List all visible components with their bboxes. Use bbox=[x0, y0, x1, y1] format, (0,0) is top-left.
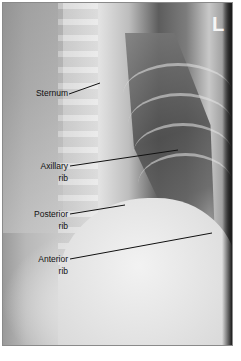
label-axillary-rib: Axillary rib bbox=[22, 160, 68, 184]
label-line1: Anterior bbox=[22, 253, 68, 265]
label-line1: Posterior bbox=[18, 208, 68, 220]
label-line1: Axillary bbox=[22, 160, 68, 172]
label-line2: rib bbox=[22, 265, 68, 277]
axillary-rib-leader-line bbox=[70, 150, 178, 166]
label-line2: rib bbox=[22, 172, 68, 184]
posterior-rib-leader-line bbox=[70, 205, 125, 214]
label-line2: rib bbox=[18, 220, 68, 232]
label-posterior-rib: Posterior rib bbox=[18, 208, 68, 232]
label-line1: Sternum bbox=[26, 87, 68, 99]
label-anterior-rib: Anterior rib bbox=[22, 253, 68, 277]
anterior-rib-leader-line bbox=[70, 233, 212, 259]
sternum-leader-line bbox=[69, 83, 100, 94]
label-sternum: Sternum bbox=[26, 87, 68, 99]
